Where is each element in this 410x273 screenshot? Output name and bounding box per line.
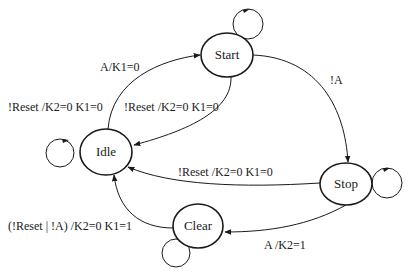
edge-label-stop-to-clear: A /K2=1 — [264, 238, 306, 252]
state-stop-label: Stop — [334, 176, 358, 191]
self-loop-stop — [372, 168, 402, 198]
edge-label-stop-to-idle: !Reset /K2=0 K1=0 — [178, 165, 273, 179]
state-clear-label: Clear — [184, 218, 213, 233]
self-loop-idle — [46, 139, 74, 167]
state-start[interactable]: Start — [201, 33, 253, 77]
state-idle[interactable]: Idle — [80, 129, 132, 175]
edge-label-start-to-idle: !Reset /K2=0 K1=0 — [124, 100, 219, 114]
state-stop[interactable]: Stop — [320, 163, 372, 205]
edge-label-start-to-stop: !A — [330, 73, 343, 87]
edge-label-idle-to-start: A/K1=0 — [100, 60, 139, 74]
edge-start-to-stop — [253, 55, 348, 162]
state-idle-label: Idle — [96, 144, 116, 159]
arrow-icon — [383, 168, 390, 172]
edge-label-clear-to-idle: (!Reset | !A) /K2=0 K1=1 — [8, 219, 132, 233]
state-diagram: Start Idle Stop Clear A/K1=0 !Reset /K2=… — [0, 0, 410, 273]
state-clear[interactable]: Clear — [173, 204, 223, 248]
edge-label-idle-left: !Reset /K2=0 K1=0 — [8, 100, 103, 114]
state-start-label: Start — [215, 47, 240, 62]
edge-stop-to-clear — [225, 205, 346, 232]
